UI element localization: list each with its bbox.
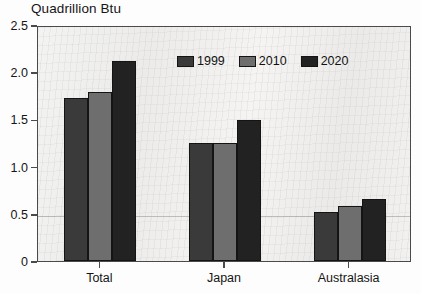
y-axis-tick-label: 2.5 xyxy=(0,19,28,33)
x-axis-tick xyxy=(99,262,101,268)
y-axis-tick-label: 2.0 xyxy=(0,66,28,80)
y-axis-tick-label: 0.5 xyxy=(0,208,28,222)
bar xyxy=(213,143,237,261)
y-axis-tick-label: 0 xyxy=(0,255,28,269)
bar xyxy=(64,98,88,261)
y-axis-tick-label: 1.0 xyxy=(0,161,28,175)
chart-legend: 199920102020 xyxy=(177,54,348,69)
legend-swatch-icon xyxy=(239,56,256,67)
bar xyxy=(189,143,213,261)
bar-chart-figure: Quadrillion Btu 00.51.01.52.02.5 1999201… xyxy=(0,0,421,294)
legend-entry: 1999 xyxy=(177,55,225,68)
chart-title: Quadrillion Btu xyxy=(31,1,121,16)
x-axis-tick-label: Total xyxy=(86,271,112,285)
x-axis-tick xyxy=(223,262,225,268)
bar xyxy=(314,212,338,261)
y-axis-tick-label: 1.5 xyxy=(0,113,28,127)
plot-area: 199920102020 xyxy=(37,26,411,262)
bar xyxy=(237,120,261,261)
bar xyxy=(362,199,386,261)
x-axis-tick-label: Australasia xyxy=(318,271,380,285)
legend-label: 2020 xyxy=(321,55,349,68)
bar xyxy=(112,61,136,261)
legend-label: 2010 xyxy=(259,55,287,68)
x-axis-tick xyxy=(348,262,350,268)
legend-swatch-icon xyxy=(177,56,194,67)
legend-entry: 2010 xyxy=(239,55,287,68)
legend-entry: 2020 xyxy=(301,55,349,68)
legend-swatch-icon xyxy=(301,56,318,67)
bar xyxy=(338,206,362,261)
legend-label: 1999 xyxy=(197,55,225,68)
bar xyxy=(88,92,112,261)
x-axis-tick-label: Japan xyxy=(207,271,241,285)
